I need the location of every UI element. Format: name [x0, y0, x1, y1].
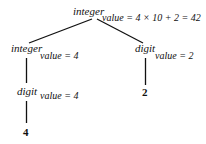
root-node-label: integer — [73, 6, 104, 17]
leaf-4: 4 — [23, 127, 29, 138]
root-node-attribute: value = 4 × 10 + 2 = 42 — [102, 13, 201, 23]
parse-tree-diagram: integer value = 4 × 10 + 2 = 42 integer … — [0, 0, 206, 144]
right-digit-node-label: digit — [135, 43, 155, 54]
left-digit-node-attribute: value = 4 — [40, 91, 78, 101]
left-digit-node-label: digit — [17, 86, 37, 97]
right-digit-node-attribute: value = 2 — [155, 51, 193, 61]
left-integer-node-attribute: value = 4 — [40, 51, 78, 61]
leaf-2: 2 — [142, 87, 148, 98]
edge-root-to-left-integer — [29, 19, 92, 43]
left-integer-node-label: integer — [11, 43, 42, 54]
